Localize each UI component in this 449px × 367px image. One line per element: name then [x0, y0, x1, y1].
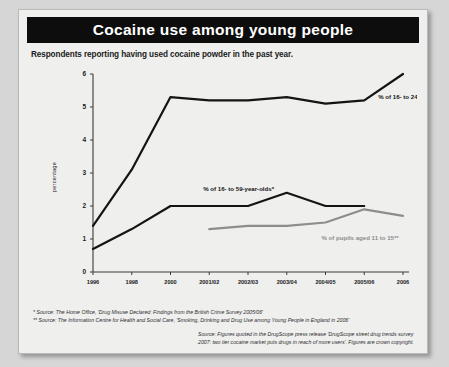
svg-text:1998: 1998: [126, 279, 138, 285]
svg-text:2006: 2006: [397, 279, 409, 285]
source-note-line-2: 2007: two tier cocaine market puts drugs…: [198, 338, 413, 346]
chart-card: Cocaine use among young people Responden…: [18, 9, 428, 354]
svg-text:6: 6: [82, 70, 86, 77]
footnote-1: * Source: The Home Office, 'Drug Misuse …: [33, 308, 415, 316]
svg-text:3: 3: [82, 169, 86, 176]
svg-text:0: 0: [82, 268, 86, 275]
svg-text:2003/04: 2003/04: [277, 279, 298, 285]
series-label: % of pupils aged 11 to 15**: [322, 234, 400, 241]
series-line: [93, 74, 403, 226]
plot-area: percentage 01234561996199820002001/02200…: [31, 64, 417, 304]
svg-text:1: 1: [82, 235, 86, 242]
svg-text:1996: 1996: [87, 279, 99, 285]
source-note: Source: Figures quoted in the DrugScope …: [198, 330, 413, 347]
title-bar: Cocaine use among young people: [27, 17, 419, 43]
svg-text:2005/06: 2005/06: [354, 279, 374, 285]
series-label: % of 16- to 24-year-olds*: [378, 93, 417, 100]
line-chart: 01234561996199820002001/022002/032003/04…: [31, 64, 417, 304]
svg-text:4: 4: [82, 136, 86, 143]
source-note-line-1: Source: Figures quoted in the DrugScope …: [198, 330, 413, 338]
page-background: Cocaine use among young people Responden…: [0, 0, 449, 367]
footnote-2: ** Source: The Information Centre for He…: [33, 316, 415, 324]
footnotes: * Source: The Home Office, 'Drug Misuse …: [33, 308, 415, 324]
svg-text:2002/03: 2002/03: [238, 279, 258, 285]
series-line: [209, 209, 403, 229]
chart-subtitle: Respondents reporting having used cocain…: [31, 50, 415, 59]
page-title: Cocaine use among young people: [93, 21, 353, 39]
svg-text:2: 2: [82, 202, 86, 209]
svg-text:2004/05: 2004/05: [315, 279, 335, 285]
series-label: % of 16- to 59-year-olds*: [203, 185, 274, 192]
svg-text:5: 5: [82, 103, 86, 110]
svg-text:2001/02: 2001/02: [199, 279, 219, 285]
svg-text:2000: 2000: [164, 279, 176, 285]
